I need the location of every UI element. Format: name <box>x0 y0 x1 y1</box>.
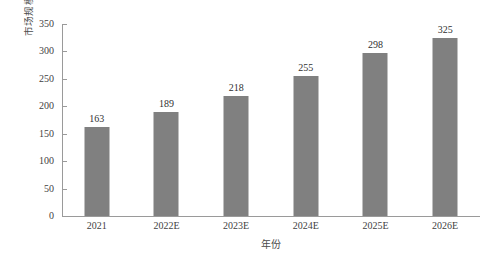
y-axis-tick-label: 300 <box>39 44 54 57</box>
bar-value-label: 189 <box>159 98 174 110</box>
bar-value-label: 298 <box>368 39 383 51</box>
x-axis-tick-label: 2025E <box>341 219 411 233</box>
bar <box>84 127 109 216</box>
bars-layer: 163189218255298325 <box>62 24 480 216</box>
x-axis-tick-label: 2024E <box>271 219 341 233</box>
bar <box>224 96 249 216</box>
bar-value-label: 325 <box>438 24 453 36</box>
y-axis-tick-label: 200 <box>39 99 54 112</box>
x-axis-tick-label: 2022E <box>132 219 202 233</box>
x-axis-tick-label: 2021 <box>62 219 132 233</box>
bar-value-label: 255 <box>298 62 313 74</box>
bar-slot: 298 <box>341 24 411 216</box>
y-axis-tick: 100 <box>0 161 62 162</box>
y-axis-tick: 300 <box>0 51 62 52</box>
bar-slot: 255 <box>271 24 341 216</box>
bar-chart: 市场规模/亿元 050100150200250300350 1631892182… <box>0 0 499 258</box>
y-axis-tick: 250 <box>0 79 62 80</box>
x-axis-line <box>62 216 480 217</box>
bar <box>154 112 179 216</box>
y-axis-tick: 0 <box>0 216 62 217</box>
bar-slot: 218 <box>201 24 271 216</box>
bar-value-label: 218 <box>229 82 244 94</box>
y-axis-tick-label: 100 <box>39 154 54 167</box>
bar <box>433 38 458 216</box>
x-axis-tick-labels: 20212022E2023E2024E2025E2026E <box>62 219 480 235</box>
y-axis-tick-label: 350 <box>39 17 54 30</box>
y-axis-tick-label: 250 <box>39 72 54 85</box>
y-axis-tick-label: 0 <box>49 209 54 222</box>
bar <box>293 76 318 216</box>
y-axis-tick-mark <box>62 216 67 217</box>
y-axis-tick: 350 <box>0 24 62 25</box>
y-axis-tick: 150 <box>0 134 62 135</box>
y-axis-tick: 50 <box>0 189 62 190</box>
bar-value-label: 163 <box>89 113 104 125</box>
bar-slot: 325 <box>410 24 480 216</box>
bar-slot: 163 <box>62 24 132 216</box>
y-axis-tick: 200 <box>0 106 62 107</box>
x-axis-tick-label: 2026E <box>410 219 480 233</box>
bar-slot: 189 <box>132 24 202 216</box>
bar <box>363 53 388 216</box>
y-axis-title: 市场规模/亿元 <box>22 0 36 74</box>
y-axis-tick-label: 50 <box>44 182 54 195</box>
x-axis-tick-label: 2023E <box>201 219 271 233</box>
y-axis-tick-label: 150 <box>39 127 54 140</box>
x-axis-title: 年份 <box>62 236 480 251</box>
